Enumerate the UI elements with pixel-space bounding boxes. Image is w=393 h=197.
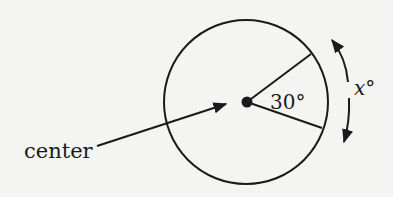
circle-diagram: 30° center x°	[0, 0, 393, 197]
arc-label: x°	[354, 76, 375, 100]
arc-arrow-lower	[344, 98, 349, 142]
angle-label: 30°	[270, 90, 305, 114]
center-point	[242, 97, 253, 108]
arc-arrow-upper	[332, 40, 348, 82]
center-label: center	[24, 139, 94, 163]
center-pointer-arrow	[97, 104, 226, 146]
